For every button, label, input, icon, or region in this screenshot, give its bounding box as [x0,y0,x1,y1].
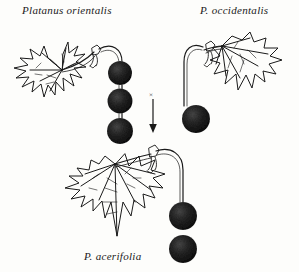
fruit-ball [108,61,132,85]
label-platanus-orientalis: Platanus orientalis [22,4,112,16]
hybrid-cross-symbol: × [149,92,153,99]
specimen-platanus-acerifolia [55,144,235,272]
fruit-ball [169,202,197,230]
specimen-platanus-orientalis [0,18,150,153]
botanical-hybridization-figure: Platanus orientalis P. occidentalis P. a… [0,0,299,272]
leaf-occidentalis [210,32,282,90]
label-platanus-occidentalis: P. occidentalis [200,4,268,16]
fruit-ball [182,105,210,133]
fruit-ball [107,118,133,144]
specimen-platanus-occidentalis [170,18,299,143]
peduncle-occidentalis [184,45,203,106]
fruit-ball [169,235,197,263]
fruit-ball-group-acerifolia [169,202,197,263]
arrow-down-icon [149,99,157,133]
peduncle-acerifolia [156,150,183,206]
fruit-ball-group-orientalis [107,61,133,144]
hybrid-arrow-down [146,99,160,139]
fruit-ball-group-occidentalis [182,105,210,133]
leaf-orientalis [14,42,86,97]
twig-orientalis [62,45,101,72]
fruit-ball [108,89,133,114]
